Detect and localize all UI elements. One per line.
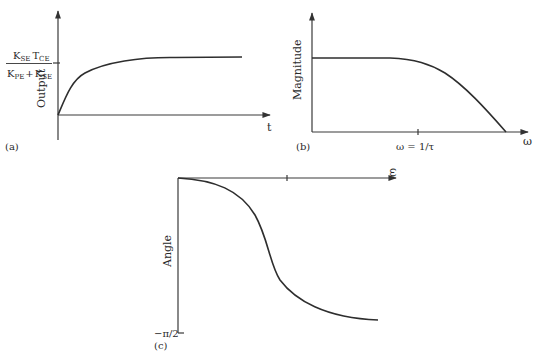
a-panel-label: (a) — [5, 141, 19, 152]
b-corner-label: ω = 1/τ — [396, 141, 435, 152]
a-step-response-curve — [58, 57, 242, 115]
c-y-label: Angle — [161, 235, 174, 268]
figure: t Output KSETCE KPE+KSE (a) ω Magnitude … — [0, 0, 538, 363]
c-x-label: ω — [387, 168, 400, 177]
c-y-tick-label: −π/2 — [154, 328, 179, 339]
c-phase-curve — [178, 178, 378, 320]
a-y-marker-fraction: KSETCE KPE+KSE — [6, 50, 52, 81]
c-panel-label: (c) — [154, 340, 168, 351]
svg-text:KSETCE: KSETCE — [13, 50, 50, 63]
b-y-label: Magnitude — [291, 39, 304, 100]
panel-c: ω Angle −π/2 (c) — [154, 168, 400, 351]
b-x-label: ω — [523, 135, 532, 148]
a-x-label: t — [267, 121, 272, 134]
b-panel-label: (b) — [296, 141, 310, 152]
panel-a: t Output KSETCE KPE+KSE (a) — [5, 11, 272, 152]
b-magnitude-curve — [312, 58, 506, 132]
panel-b: ω Magnitude ω = 1/τ (b) — [291, 13, 532, 152]
